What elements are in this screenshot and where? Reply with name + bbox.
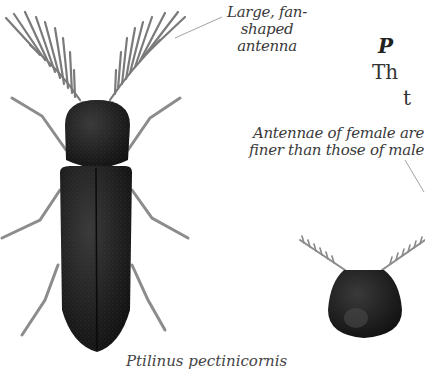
body-text-fragment-2: t: [403, 86, 411, 110]
species-caption: Ptilinus pectinicornis: [126, 352, 287, 370]
section-heading-fragment: P: [378, 34, 393, 58]
body-text-fragment-1: Th: [372, 60, 398, 84]
male-antenna-label: Large, fan- shaped antenna: [222, 4, 312, 55]
female-head-illustration: [290, 210, 425, 340]
female-antenna-label: Antennae of female are finer than those …: [212, 125, 424, 159]
